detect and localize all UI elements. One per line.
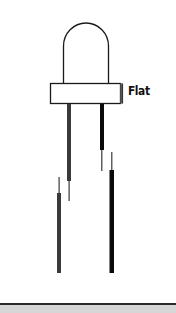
- cathode-lead-upper: [100, 104, 104, 150]
- anode-lead-thin: [69, 181, 70, 201]
- cathode-lead-thin: [101, 150, 102, 171]
- anode-lead-lower-thin: [59, 177, 60, 194]
- anode-lead-lower: [57, 193, 61, 273]
- cathode-lead-lower: [110, 170, 115, 273]
- led-dome: [64, 23, 109, 83]
- flat-label: Flat: [128, 83, 150, 99]
- anode-lead-upper: [67, 104, 71, 181]
- cathode-lead-lower-thin: [111, 152, 112, 171]
- led-flange: [51, 84, 121, 104]
- led-diagram: [0, 0, 176, 313]
- bottom-band: [0, 305, 176, 313]
